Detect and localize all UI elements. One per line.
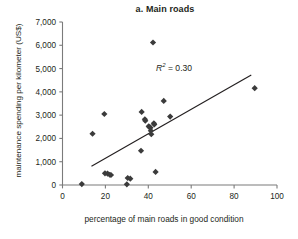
- y-axis-tick-label: 0: [51, 181, 56, 190]
- y-axis-tick-label: 4,000: [36, 88, 57, 97]
- x-axis-tick-label: 0: [60, 192, 65, 201]
- data-point-marker: [79, 181, 85, 187]
- scatter-plot-area: 01,0002,0003,0004,0005,0006,0007,0000204…: [0, 0, 298, 239]
- data-point-marker: [101, 111, 107, 117]
- x-axis-tick-label: 80: [230, 192, 240, 201]
- data-point-marker: [252, 85, 258, 91]
- data-point-marker: [124, 181, 130, 187]
- x-axis-tick-label: 40: [144, 192, 154, 201]
- y-axis-tick-label: 6,000: [36, 41, 57, 50]
- x-axis-tick-label: 60: [187, 192, 197, 201]
- x-axis-tick-label: 20: [101, 192, 111, 201]
- x-axis-tick-label: 100: [270, 192, 284, 201]
- y-axis-tick-label: 3,000: [36, 111, 57, 120]
- y-axis-tick-label: 7,000: [36, 18, 57, 27]
- data-point-marker: [167, 113, 173, 119]
- y-axis-tick-label: 5,000: [36, 65, 57, 74]
- trendline: [91, 75, 251, 166]
- y-axis-tick-label: 1,000: [36, 158, 57, 167]
- chart-figure: a. Main roads maintenance spending per k…: [0, 0, 298, 239]
- y-axis-tick-label: 2,000: [36, 134, 57, 143]
- data-point-marker: [150, 39, 156, 45]
- data-point-marker: [161, 98, 167, 104]
- data-point-marker: [89, 131, 95, 137]
- data-point-marker: [138, 148, 144, 154]
- data-point-marker: [139, 109, 145, 115]
- data-point-marker: [152, 169, 158, 175]
